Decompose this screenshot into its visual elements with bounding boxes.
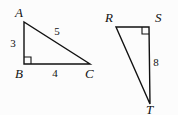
side-label-ab: 3 xyxy=(10,37,16,49)
vertex-label-b: B xyxy=(15,66,23,81)
vertex-label-r: R xyxy=(104,10,113,25)
side-label-bc: 4 xyxy=(52,67,58,79)
side-label-ac: 5 xyxy=(54,25,60,37)
vertex-label-t: T xyxy=(146,102,154,115)
vertex-label-a: A xyxy=(14,5,23,20)
side-label-st: 8 xyxy=(153,56,159,68)
geometry-figure-canvas: A B C 3 5 4 R S T 8 xyxy=(0,0,178,115)
geometry-figure: A B C 3 5 4 R S T 8 xyxy=(0,0,178,115)
vertex-label-s: S xyxy=(155,10,162,25)
vertex-label-c: C xyxy=(85,66,94,81)
